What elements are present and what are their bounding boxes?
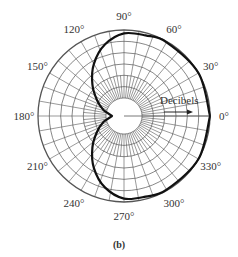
decibels-label: Decibels — [160, 94, 198, 106]
grid-spoke — [43, 122, 107, 145]
figure-caption: (b) — [113, 239, 125, 251]
angle-label-210: 210° — [27, 160, 48, 172]
decibels-indicator: Decibels — [160, 94, 198, 115]
polar-chart: 0°30°60°90°120°150°180°210°240°270°300°3… — [0, 0, 238, 257]
angle-label-150: 150° — [27, 60, 48, 72]
angle-label-0: 0° — [219, 110, 229, 122]
grid-spoke — [141, 122, 205, 145]
angle-label-120: 120° — [64, 23, 85, 35]
angle-label-270: 270° — [114, 210, 135, 222]
angle-label-30: 30° — [203, 60, 218, 72]
angle-label-300: 300° — [164, 197, 185, 209]
angle-label-60: 60° — [166, 23, 181, 35]
grid-spoke — [43, 87, 107, 110]
angle-label-180: 180° — [14, 110, 35, 122]
grid-spoke — [130, 35, 153, 99]
angle-label-330: 330° — [200, 160, 221, 172]
grid-spoke — [130, 133, 153, 197]
angle-label-90: 90° — [116, 10, 131, 22]
polar-pattern-figure: 0°30°60°90°120°150°180°210°240°270°300°3… — [0, 0, 238, 257]
arrow-head-icon — [187, 110, 193, 115]
angle-label-240: 240° — [64, 197, 85, 209]
